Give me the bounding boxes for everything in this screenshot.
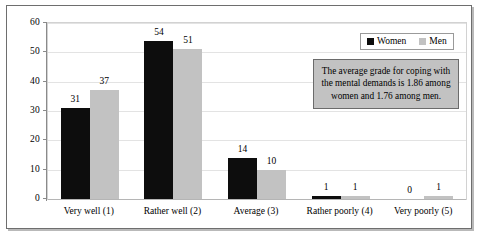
legend-entry-men[interactable]: Men bbox=[419, 36, 446, 46]
x-tick-label-3: Average (3) bbox=[214, 206, 298, 216]
bar-men-5[interactable]: 1 bbox=[424, 196, 453, 199]
bar-row: 1410 bbox=[215, 23, 299, 199]
bar-men-2[interactable]: 51 bbox=[173, 49, 202, 199]
bar-value-label: 37 bbox=[100, 76, 110, 86]
bar-value-label: 1 bbox=[324, 182, 329, 192]
legend-label: Women bbox=[377, 36, 406, 46]
bar-men-4[interactable]: 1 bbox=[341, 196, 370, 199]
x-tick-label-4: Rather poorly (4) bbox=[298, 206, 382, 216]
bar-row: 5451 bbox=[132, 23, 216, 199]
x-axis: Very well (1)Rather well (2)Average (3)R… bbox=[47, 202, 467, 224]
annotation-textbox: The average grade for coping with the me… bbox=[313, 59, 459, 109]
legend-swatch-women-icon bbox=[367, 38, 374, 45]
bar-value-label: 1 bbox=[353, 182, 358, 192]
bar-men-1[interactable]: 37 bbox=[90, 90, 119, 199]
bar-women-1[interactable]: 31 bbox=[61, 108, 90, 199]
bar-value-label: 31 bbox=[71, 94, 81, 104]
x-tick-label-5: Very poorly (5) bbox=[381, 206, 465, 216]
y-tick-label-50: 50 bbox=[30, 46, 40, 56]
bar-value-label: 14 bbox=[238, 144, 248, 154]
bar-value-label: 51 bbox=[183, 35, 193, 45]
bar-women-3[interactable]: 14 bbox=[228, 158, 257, 199]
chart-legend: WomenMen bbox=[360, 33, 454, 50]
x-tick-label-1: Very well (1) bbox=[47, 206, 131, 216]
y-tick-label-60: 60 bbox=[30, 17, 40, 27]
legend-label: Men bbox=[429, 36, 446, 46]
y-tick-label-40: 40 bbox=[30, 76, 40, 86]
bar-group: 1410 bbox=[215, 23, 299, 199]
legend-entry-women[interactable]: Women bbox=[367, 36, 406, 46]
bar-women-2[interactable]: 54 bbox=[144, 41, 173, 199]
y-tick-label-20: 20 bbox=[30, 134, 40, 144]
bar-group: 5451 bbox=[132, 23, 216, 199]
x-tick-label-2: Rather well (2) bbox=[131, 206, 215, 216]
bar-value-label: 1 bbox=[436, 182, 441, 192]
bar-women-4[interactable]: 1 bbox=[312, 196, 341, 199]
y-tick-label-0: 0 bbox=[35, 193, 40, 203]
bar-value-label: 10 bbox=[267, 156, 277, 166]
chart-frame: 0102030405060 3137545114101101 Very well… bbox=[6, 5, 472, 229]
bar-row: 3137 bbox=[48, 23, 132, 199]
bar-men-3[interactable]: 10 bbox=[257, 170, 286, 199]
gridline-0 bbox=[48, 199, 466, 200]
bar-value-label: 54 bbox=[154, 27, 164, 37]
y-tick-label-30: 30 bbox=[30, 105, 40, 115]
bar-value-label: 0 bbox=[407, 185, 412, 195]
y-tick-label-10: 10 bbox=[30, 164, 40, 174]
y-axis: 0102030405060 bbox=[7, 22, 47, 200]
bar-group: 3137 bbox=[48, 23, 132, 199]
legend-swatch-men-icon bbox=[419, 38, 426, 45]
